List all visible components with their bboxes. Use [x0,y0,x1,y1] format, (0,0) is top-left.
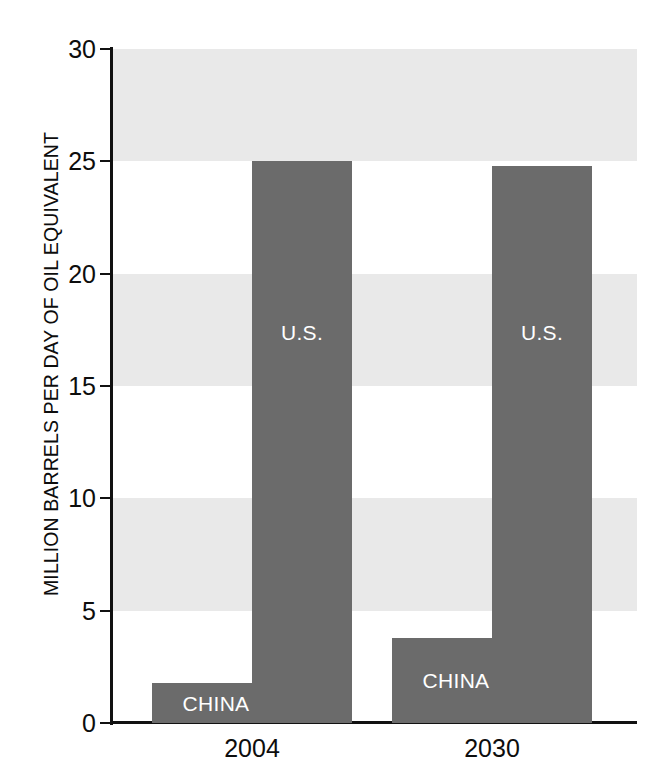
bar-2030-china[interactable]: CHINA [392,638,492,723]
y-axis-tick-label: 15 [50,374,96,399]
y-axis-tick-label: 20 [50,261,96,286]
y-axis-tick-label: 5 [50,598,96,623]
y-axis-tick-label: 0 [50,711,96,736]
y-axis-tick-label: 10 [50,486,96,511]
x-axis-label-2030: 2030 [392,736,592,761]
x-axis-label-2004: 2004 [152,736,352,761]
bar-label: U.S. [492,322,592,343]
y-axis-tick-label: 25 [50,149,96,174]
bar-chart: MILLION BARRELS PER DAY OF OIL EQUIVALEN… [0,0,651,779]
bar-2030-us[interactable]: U.S. [492,166,592,723]
y-axis-tick-label: 30 [50,37,96,62]
plot-area: CHINAU.S.CHINAU.S. [113,49,637,723]
bar-group-2030: CHINAU.S. [113,49,637,723]
